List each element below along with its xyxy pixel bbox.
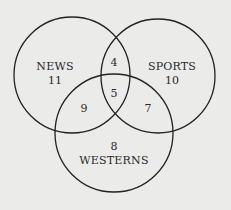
news-sports-count: 4 [111,56,118,69]
all-three-count: 5 [111,87,118,100]
sports-westerns-count: 7 [145,102,152,115]
news-label: NEWS [36,60,73,73]
venn-diagram: NEWS 11 SPORTS 10 8 WESTERNS 4 5 9 7 [0,0,231,210]
news-only-count: 11 [48,74,62,87]
news-circle [14,17,130,133]
sports-circle [101,19,215,133]
sports-only-count: 10 [165,74,179,87]
westerns-label: WESTERNS [79,154,148,167]
sports-label: SPORTS [148,60,196,73]
news-westerns-count: 9 [81,102,88,115]
westerns-only-count: 8 [111,140,118,153]
